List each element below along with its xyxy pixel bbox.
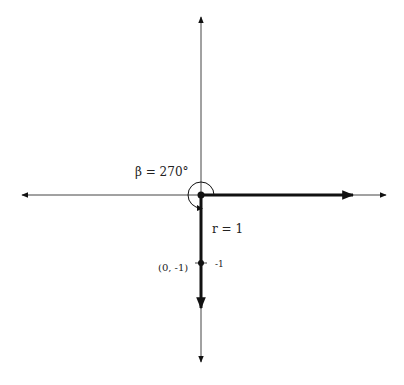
unit-circle-angle-diagram: β = 270° r = 1 (0, -1) -1	[0, 0, 404, 385]
tick-label: -1	[215, 259, 224, 269]
point-label: (0, -1)	[158, 262, 188, 273]
radius-label: r = 1	[212, 222, 243, 236]
point-0-minus1	[198, 260, 204, 266]
angle-label: β = 270°	[135, 165, 189, 179]
origin-point	[198, 192, 205, 199]
